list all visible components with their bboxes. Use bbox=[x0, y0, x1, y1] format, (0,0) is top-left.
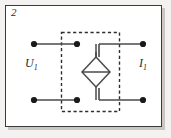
terminal-dot-top-left-inner bbox=[74, 41, 80, 47]
terminal-dot-bottom-left-inner bbox=[74, 97, 80, 103]
terminal-dot-top-left-outer bbox=[31, 41, 37, 47]
circuit-schematic bbox=[0, 0, 171, 138]
terminal-dot-bottom-left-outer bbox=[31, 97, 37, 103]
terminal-dot-bottom-right-outer bbox=[140, 97, 146, 103]
terminal-dot-top-right-outer bbox=[140, 41, 146, 47]
circuit-figure: 2 U1 I1 bbox=[0, 0, 171, 138]
